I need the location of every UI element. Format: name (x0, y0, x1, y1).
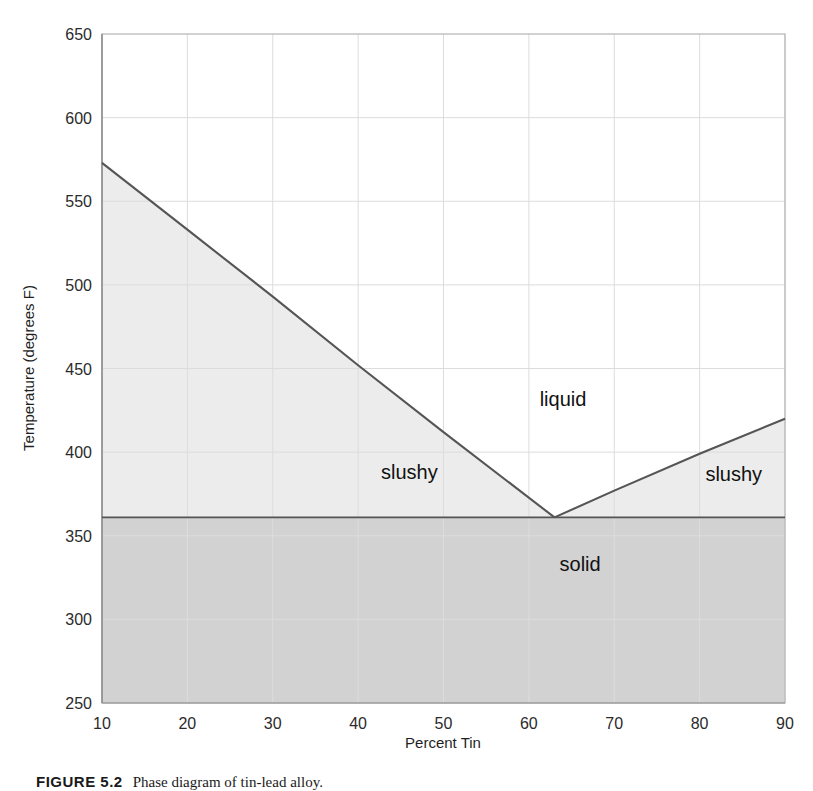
region-label-slushy-2: slushy (705, 463, 762, 485)
svg-text:450: 450 (65, 361, 92, 378)
svg-text:400: 400 (65, 444, 92, 461)
svg-text:70: 70 (605, 715, 623, 732)
svg-text:80: 80 (691, 715, 709, 732)
svg-text:20: 20 (178, 715, 196, 732)
x-tick-labels: 102030405060708090 (93, 715, 794, 732)
svg-text:60: 60 (520, 715, 538, 732)
region-label-liquid-0: liquid (540, 388, 587, 410)
y-axis-title: Temperature (degrees F) (20, 285, 37, 451)
svg-text:500: 500 (65, 277, 92, 294)
region-label-solid-3: solid (560, 553, 601, 575)
svg-text:250: 250 (65, 695, 92, 712)
svg-text:30: 30 (264, 715, 282, 732)
svg-text:600: 600 (65, 110, 92, 127)
svg-text:350: 350 (65, 528, 92, 545)
svg-text:40: 40 (349, 715, 367, 732)
phase-diagram-chart: 102030405060708090 250300350400450500550… (0, 0, 813, 791)
figure-caption-text: Phase diagram of tin-lead alloy. (133, 774, 323, 790)
figure-caption: FIGURE 5.2Phase diagram of tin-lead allo… (36, 772, 796, 791)
svg-text:550: 550 (65, 193, 92, 210)
svg-text:50: 50 (435, 715, 453, 732)
figure-number: FIGURE 5.2 (36, 773, 123, 790)
svg-text:10: 10 (93, 715, 111, 732)
x-axis-title: Percent Tin (405, 734, 481, 751)
svg-text:650: 650 (65, 26, 92, 43)
region-label-slushy-1: slushy (381, 461, 438, 483)
svg-text:300: 300 (65, 611, 92, 628)
svg-text:90: 90 (776, 715, 794, 732)
y-tick-labels: 250300350400450500550600650 (65, 26, 92, 712)
figure-container: 102030405060708090 250300350400450500550… (0, 0, 813, 791)
